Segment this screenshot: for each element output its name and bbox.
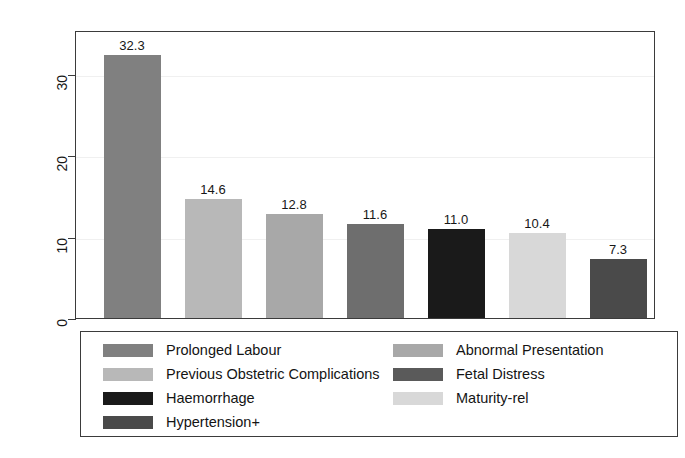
legend-label: Abnormal Presentation [456, 343, 604, 358]
legend-swatch [393, 344, 443, 357]
legend-column-right: Abnormal PresentationFetal DistressMatur… [393, 338, 604, 410]
y-axis-tick-label: 20 [54, 156, 70, 172]
bar[interactable] [185, 199, 242, 318]
y-axis-tick-label: 10 [54, 238, 70, 254]
legend-label: Prolonged Labour [166, 343, 281, 358]
legend-label: Fetal Distress [456, 367, 545, 382]
bar-chart-figure: 3020100 32.314.612.811.611.010.47.3 Prol… [0, 0, 685, 458]
bar-value-label: 10.4 [497, 216, 577, 231]
legend-entry[interactable]: Prolonged Labour [103, 338, 380, 362]
bar-value-label: 14.6 [173, 182, 253, 197]
legend-swatch [103, 416, 153, 429]
bar-value-label: 12.8 [254, 197, 334, 212]
legend-swatch [103, 344, 153, 357]
bars-layer: 32.314.612.811.611.010.47.3 [76, 32, 654, 318]
legend-entry[interactable]: Abnormal Presentation [393, 338, 604, 362]
legend-label: Previous Obstetric Complications [166, 367, 380, 382]
bar[interactable] [590, 259, 647, 318]
legend-label: Hypertension+ [166, 415, 260, 430]
bar-value-label: 11.0 [416, 212, 496, 227]
legend-entry[interactable]: Maturity-rel [393, 386, 604, 410]
legend-swatch [103, 368, 153, 381]
bar[interactable] [266, 214, 323, 318]
legend-entry[interactable]: Haemorrhage [103, 386, 380, 410]
bar-value-label: 7.3 [578, 242, 658, 257]
legend-column-left: Prolonged LabourPrevious Obstetric Compl… [103, 338, 380, 434]
y-axis-tick-label: 30 [54, 75, 70, 91]
legend-entry[interactable]: Hypertension+ [103, 410, 380, 434]
bar-value-label: 32.3 [92, 38, 172, 53]
y-axis: 3020100 [60, 31, 76, 320]
bar[interactable] [104, 55, 161, 318]
legend-label: Maturity-rel [456, 391, 529, 406]
legend-swatch [393, 368, 443, 381]
y-axis-tick-label: 0 [54, 319, 70, 327]
legend-entry[interactable]: Fetal Distress [393, 362, 604, 386]
legend-swatch [103, 392, 153, 405]
legend-swatch [393, 392, 443, 405]
bar-value-label: 11.6 [335, 207, 415, 222]
bar[interactable] [509, 233, 566, 318]
bar[interactable] [347, 224, 404, 318]
legend-entry[interactable]: Previous Obstetric Complications [103, 362, 380, 386]
legend-label: Haemorrhage [166, 391, 255, 406]
bar[interactable] [428, 229, 485, 318]
plot-panel: 32.314.612.811.611.010.47.3 [75, 31, 655, 319]
legend: Prolonged LabourPrevious Obstetric Compl… [80, 331, 678, 437]
